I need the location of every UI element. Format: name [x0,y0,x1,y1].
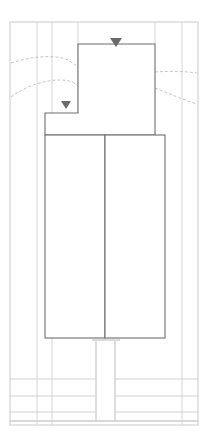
lower-room-right [105,135,165,338]
floor-plan-canvas [0,0,215,444]
lower-room-left [45,135,105,338]
floor-plan-drawing [0,0,215,444]
